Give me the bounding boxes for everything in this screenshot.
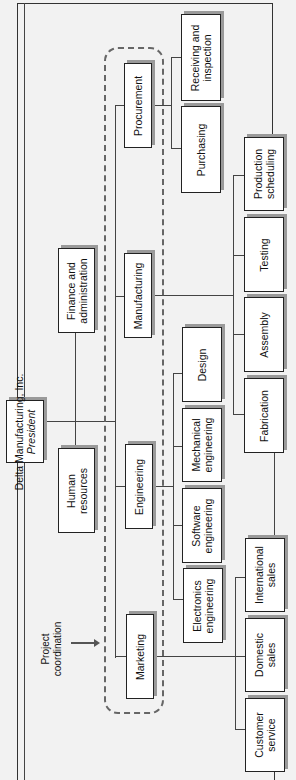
connector [233, 175, 244, 176]
connector [75, 332, 76, 448]
node-president[interactable]: Delta Manufacturing, Inc. President [6, 400, 44, 463]
node-receiving-inspection[interactable]: Receiving andinspection [181, 14, 221, 101]
president-name: Delta Manufacturing, Inc. [13, 373, 25, 490]
connector [233, 255, 244, 256]
connector [173, 373, 174, 599]
node-purchasing[interactable]: Purchasing [181, 106, 221, 193]
president-title: President [25, 373, 37, 490]
connector [235, 577, 236, 729]
connector [24, 3, 25, 400]
connector [233, 175, 234, 414]
frame-top-border [17, 3, 273, 4]
frame-right-border [272, 3, 273, 136]
connector [274, 452, 275, 542]
arrow-right-icon [94, 639, 100, 647]
connector [235, 729, 245, 730]
node-software-engineering[interactable]: Softwareengineering [182, 488, 222, 563]
node-manufacturing[interactable]: Manufacturing [124, 253, 152, 338]
node-production-scheduling[interactable]: Productionscheduling [244, 137, 284, 211]
connector [153, 656, 235, 657]
connector [171, 57, 172, 148]
node-procurement[interactable]: Procurement [124, 63, 152, 148]
project-coordination-label: Project coordination [40, 622, 64, 676]
connector [235, 656, 245, 657]
node-design[interactable]: Design [182, 327, 222, 402]
node-human-resources[interactable]: Humanresources [58, 448, 95, 533]
node-finance-administration[interactable]: Finance andadministration [58, 248, 95, 333]
connector [173, 599, 183, 600]
node-testing[interactable]: Testing [244, 217, 284, 292]
node-domestic-sales[interactable]: Domesticsales [245, 618, 285, 692]
arrow-line [71, 642, 95, 644]
connector [24, 462, 25, 780]
node-mechanical-engineering[interactable]: Mechanicalengineering [182, 408, 222, 482]
node-fabrication[interactable]: Fabrication [244, 378, 284, 453]
node-engineering[interactable]: Engineering [125, 444, 153, 529]
connector [233, 334, 244, 335]
connector [233, 414, 244, 415]
node-assembly[interactable]: Assembly [244, 297, 284, 372]
node-international-sales[interactable]: Internationalsales [245, 538, 285, 612]
node-electronics-engineering[interactable]: Electronicsengineering [183, 568, 223, 643]
node-customer-service[interactable]: Customerservice [245, 698, 285, 772]
node-marketing[interactable]: Marketing [126, 614, 154, 699]
connector [235, 577, 245, 578]
